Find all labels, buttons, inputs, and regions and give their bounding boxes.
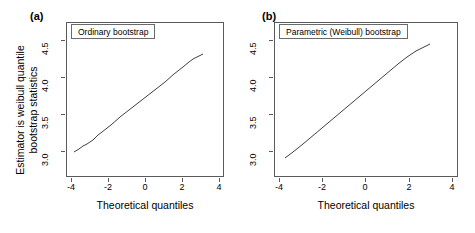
y-tick-mark (61, 77, 65, 78)
y-tick-3-5: 3.5 (40, 109, 50, 129)
x-tick-neg2: -2 (312, 182, 332, 192)
y-tick-mark (269, 40, 273, 41)
y-tick-3-0: 3.0 (40, 146, 50, 166)
y-tick-mark (269, 77, 273, 78)
x-tick-4: 4 (209, 182, 229, 192)
y-tick-mark (61, 40, 65, 41)
x-axis-label-b: Theoretical quantiles (274, 199, 458, 211)
y-tick-4-5: 4.5 (40, 35, 50, 55)
y-tick-4-5: 4.5 (248, 35, 258, 55)
qq-curve-a (66, 22, 224, 177)
panel-b: (b) 4.5 4.0 3.5 3.0 Parametric (Weibull)… (235, 0, 475, 233)
x-tick-neg4: -4 (61, 182, 81, 192)
y-tick-mark (61, 151, 65, 152)
x-tick-neg4: -4 (269, 182, 289, 192)
y-tick-mark (269, 151, 273, 152)
y-axis-label-line2: bootstrap statistics (27, 25, 40, 195)
x-tick-2: 2 (399, 182, 419, 192)
y-tick-3-0: 3.0 (248, 146, 258, 166)
y-tick-4-0: 4.0 (40, 72, 50, 92)
y-tick-4-0: 4.0 (248, 72, 258, 92)
y-axis-label-line1: Estimator is weibull quantile (14, 45, 26, 175)
y-tick-mark (269, 114, 273, 115)
y-tick-mark (61, 114, 65, 115)
x-axis-label-a: Theoretical quantiles (66, 199, 224, 211)
y-axis-label: Estimator is weibull quantile bootstrap … (14, 25, 40, 195)
panel-a: (a) Estimator is weibull quantile bootst… (0, 0, 240, 233)
x-tick-4: 4 (442, 182, 462, 192)
figure-root: (a) Estimator is weibull quantile bootst… (0, 0, 475, 233)
x-tick-0: 0 (135, 182, 155, 192)
panel-a-tag: (a) (30, 10, 43, 22)
panel-b-tag: (b) (262, 10, 276, 22)
x-tick-2: 2 (172, 182, 192, 192)
x-tick-0: 0 (355, 182, 375, 192)
y-tick-3-5: 3.5 (248, 109, 258, 129)
x-tick-neg2: -2 (98, 182, 118, 192)
qq-curve-b (274, 22, 458, 177)
